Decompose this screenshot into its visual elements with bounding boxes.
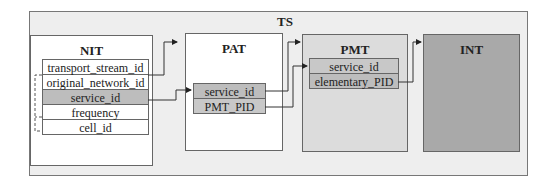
arrow-pat-pmtpid-to-pmt-sid (265, 66, 307, 107)
dashed-bracket-onid-to-cellid (35, 75, 42, 131)
arrow-nit-sid-to-pat-sid (148, 90, 191, 100)
connectors (0, 0, 554, 187)
arrow-nit-tsid-to-pat (148, 42, 177, 75)
arrow-pmt-epid-to-int (398, 42, 421, 82)
